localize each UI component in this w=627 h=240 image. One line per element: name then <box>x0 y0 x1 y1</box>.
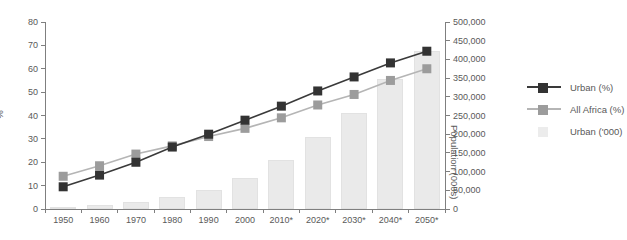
left-axis-tick <box>41 185 45 186</box>
left-axis-tick-label: 30 <box>14 134 38 144</box>
right-axis-tick-label: 0 <box>453 204 458 214</box>
series-marker <box>313 100 322 109</box>
series-marker <box>241 116 250 125</box>
right-axis-tick <box>446 190 450 191</box>
left-axis-tick-label: 60 <box>14 64 38 74</box>
left-axis-tick-label: 0 <box>14 204 38 214</box>
legend-label: All Africa (%) <box>570 104 624 115</box>
right-axis-tick <box>446 78 450 79</box>
series-marker <box>386 58 395 67</box>
x-axis-tick <box>263 209 264 213</box>
x-axis-tick <box>335 209 336 213</box>
left-axis-tick-label: 10 <box>14 181 38 191</box>
series-marker <box>277 102 286 111</box>
left-axis-tick <box>41 68 45 69</box>
x-axis-tick <box>372 209 373 213</box>
right-axis-tick <box>446 59 450 60</box>
x-axis-category-label: 1950 <box>45 215 81 225</box>
right-axis-tick-label: 50,000 <box>453 185 481 195</box>
left-axis-tick <box>41 162 45 163</box>
right-axis-tick-label: 350,000 <box>453 73 486 83</box>
left-axis-tick-label: 50 <box>14 87 38 97</box>
series-marker <box>422 64 431 73</box>
all-africa-line-marker-icon <box>527 105 561 114</box>
right-axis-tick-label: 250,000 <box>453 111 486 121</box>
x-axis-category-label: 1970 <box>118 215 154 225</box>
right-axis-tick-label: 300,000 <box>453 92 486 102</box>
x-axis-category-label: 2040* <box>372 215 408 225</box>
legend-item-urban-000: Urban ('000) <box>527 124 624 138</box>
population-chart: % Population (000s) 01020304050607080050… <box>0 0 627 240</box>
x-axis-category-label: 2000 <box>227 215 263 225</box>
x-axis-category-label: 2030* <box>336 215 372 225</box>
series-marker <box>131 158 140 167</box>
x-axis-tick <box>408 209 409 213</box>
x-axis-category-label: 1990 <box>191 215 227 225</box>
x-axis-tick <box>190 209 191 213</box>
right-axis-tick-label: 100,000 <box>453 167 486 177</box>
x-axis-category-label: 2020* <box>300 215 336 225</box>
series-marker <box>313 86 322 95</box>
series-marker <box>95 171 104 180</box>
legend-item-all-africa-pct: All Africa (%) <box>527 102 624 116</box>
right-axis-tick-label: 400,000 <box>453 54 486 64</box>
left-axis-tick <box>41 92 45 93</box>
right-axis-tick-label: 150,000 <box>453 148 486 158</box>
right-axis-tick-label: 200,000 <box>453 129 486 139</box>
series-marker <box>350 72 359 81</box>
series-marker <box>386 76 395 85</box>
left-axis-tick <box>41 22 45 23</box>
legend-label: Urban (%) <box>570 82 613 93</box>
right-axis-tick-label: 500,000 <box>453 17 486 27</box>
series-marker <box>277 113 286 122</box>
series-marker <box>95 161 104 170</box>
left-axis-tick <box>41 138 45 139</box>
legend: Urban (%) All Africa (%) Urban ('000) <box>527 80 624 146</box>
x-axis-tick <box>81 209 82 213</box>
x-axis-tick <box>226 209 227 213</box>
left-axis-tick-label: 40 <box>14 111 38 121</box>
right-axis-tick <box>446 152 450 153</box>
left-axis-tick-label: 70 <box>14 40 38 50</box>
series-marker <box>204 130 213 139</box>
left-axis-tick-label: 20 <box>14 157 38 167</box>
x-axis-category-label: 1960 <box>82 215 118 225</box>
series-marker <box>59 172 68 181</box>
x-axis-tick <box>445 209 446 213</box>
x-axis-tick <box>299 209 300 213</box>
right-axis-tick-label: 450,000 <box>453 36 486 46</box>
x-axis-category-label: 2050* <box>409 215 445 225</box>
x-axis-category-label: 2010* <box>263 215 299 225</box>
right-axis-tick <box>446 22 450 23</box>
right-axis-tick <box>446 115 450 116</box>
right-axis-tick <box>446 134 450 135</box>
left-axis-tick <box>41 115 45 116</box>
series-marker <box>168 143 177 152</box>
series-marker <box>350 90 359 99</box>
series-marker <box>422 47 431 56</box>
legend-item-urban-pct: Urban (%) <box>527 80 624 94</box>
x-axis-tick <box>45 209 46 213</box>
x-axis-tick <box>154 209 155 213</box>
right-axis-tick <box>446 171 450 172</box>
x-axis-category-label: 1980 <box>154 215 190 225</box>
urban-pct-line-marker-icon <box>527 83 561 92</box>
left-axis-tick <box>41 45 45 46</box>
right-axis-tick <box>446 96 450 97</box>
right-axis-tick <box>446 209 450 210</box>
legend-label: Urban ('000) <box>570 126 623 137</box>
series-marker <box>241 124 250 133</box>
x-axis-tick <box>117 209 118 213</box>
right-axis-tick <box>446 40 450 41</box>
series-marker <box>131 150 140 159</box>
urban-000-bar-swatch-icon <box>527 127 561 136</box>
series-marker <box>59 182 68 191</box>
left-axis-tick-label: 80 <box>14 17 38 27</box>
